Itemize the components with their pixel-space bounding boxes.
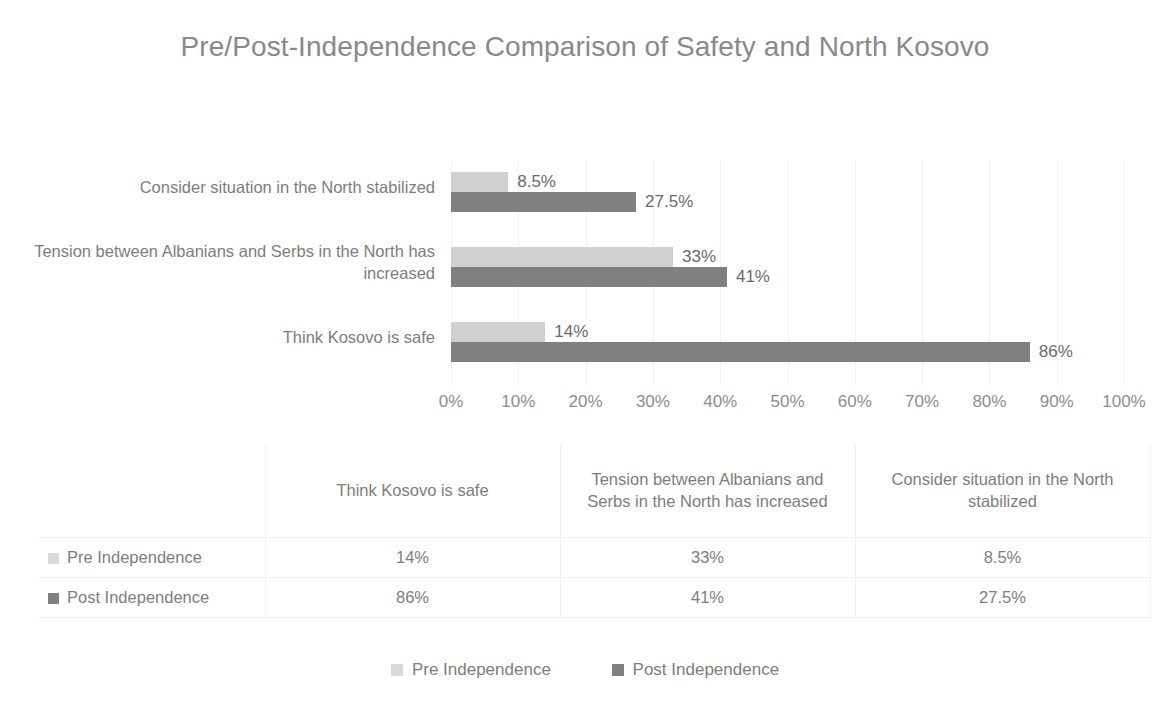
- table-cell: 33%: [560, 538, 855, 578]
- table-cell: 86%: [265, 578, 560, 618]
- category-axis-label: Consider situation in the North stabiliz…: [15, 176, 435, 198]
- bar-post-independence[interactable]: [451, 192, 636, 212]
- table-row-label: Pre Independence: [67, 548, 202, 566]
- bar-value-label-post: 27.5%: [645, 192, 693, 212]
- table-column-header: Consider situation in the North stabiliz…: [855, 445, 1150, 538]
- x-axis-tick-label: 10%: [501, 392, 535, 412]
- category-axis-label: Think Kosovo is safe: [15, 326, 435, 348]
- bar-value-label-pre: 14%: [554, 322, 588, 342]
- x-axis-tick-label: 70%: [905, 392, 939, 412]
- table-column-header: Tension between Albanians and Serbs in t…: [560, 445, 855, 538]
- table-cell: 8.5%: [855, 538, 1150, 578]
- table-cell: 14%: [265, 538, 560, 578]
- x-axis-tick-label: 60%: [838, 392, 872, 412]
- table-row-label: Post Independence: [67, 588, 209, 606]
- bar-value-label-pre: 8.5%: [517, 172, 556, 192]
- category-axis-label: Tension between Albanians and Serbs in t…: [15, 240, 435, 285]
- x-axis-tick-label: 90%: [1040, 392, 1074, 412]
- bar-pre-independence[interactable]: [451, 322, 545, 342]
- table-row-header-pre: Pre Independence: [38, 538, 265, 578]
- legend-label: Post Independence: [633, 660, 780, 679]
- chart-category-row: Tension between Albanians and Serbs in t…: [0, 235, 1170, 305]
- bar-post-independence[interactable]: [451, 267, 727, 287]
- series-swatch-pre-icon: [48, 553, 59, 564]
- legend-swatch-post-icon: [612, 664, 624, 676]
- bar-post-independence[interactable]: [451, 342, 1030, 362]
- chart-title: Pre/Post-Independence Comparison of Safe…: [160, 28, 1010, 66]
- legend-item-pre-independence[interactable]: Pre Independence: [391, 660, 551, 680]
- x-axis-tick-label: 80%: [972, 392, 1006, 412]
- x-axis-tick-label: 40%: [703, 392, 737, 412]
- bar-group: 14% 86%: [451, 310, 1124, 380]
- x-axis-tick-labels: 0%10%20%30%40%50%60%70%80%90%100%: [451, 392, 1124, 418]
- bar-value-label-post: 41%: [736, 267, 770, 287]
- x-axis-tick-label: 20%: [569, 392, 603, 412]
- legend-label: Pre Independence: [412, 660, 551, 679]
- table-row: Pre Independence 14% 33% 8.5%: [38, 538, 1150, 578]
- data-table: Think Kosovo is safe Tension between Alb…: [38, 445, 1151, 618]
- table-cell: 27.5%: [855, 578, 1150, 618]
- table-cell: 41%: [560, 578, 855, 618]
- table-row-header-post: Post Independence: [38, 578, 265, 618]
- bar-group: 33% 41%: [451, 235, 1124, 305]
- bar-value-label-post: 86%: [1039, 342, 1073, 362]
- legend-item-post-independence[interactable]: Post Independence: [612, 660, 780, 680]
- table-corner-cell: [38, 445, 265, 538]
- bar-pre-independence[interactable]: [451, 247, 673, 267]
- bar-value-label-pre: 33%: [682, 247, 716, 267]
- bar-pre-independence[interactable]: [451, 172, 508, 192]
- x-axis-tick-label: 50%: [770, 392, 804, 412]
- x-axis-tick-label: 100%: [1102, 392, 1145, 412]
- table-header-row: Think Kosovo is safe Tension between Alb…: [38, 445, 1150, 538]
- series-swatch-post-icon: [48, 593, 59, 604]
- table-row: Post Independence 86% 41% 27.5%: [38, 578, 1150, 618]
- chart-legend: Pre Independence Post Independence: [0, 660, 1170, 680]
- x-axis-tick-label: 0%: [439, 392, 464, 412]
- table-column-header: Think Kosovo is safe: [265, 445, 560, 538]
- x-axis-tick-label: 30%: [636, 392, 670, 412]
- chart-plot-region: Consider situation in the North stabiliz…: [0, 160, 1170, 392]
- bar-group: 8.5% 27.5%: [451, 160, 1124, 230]
- legend-swatch-pre-icon: [391, 664, 403, 676]
- chart-category-row: Consider situation in the North stabiliz…: [0, 160, 1170, 230]
- chart-category-row: Think Kosovo is safe 14% 86%: [0, 310, 1170, 380]
